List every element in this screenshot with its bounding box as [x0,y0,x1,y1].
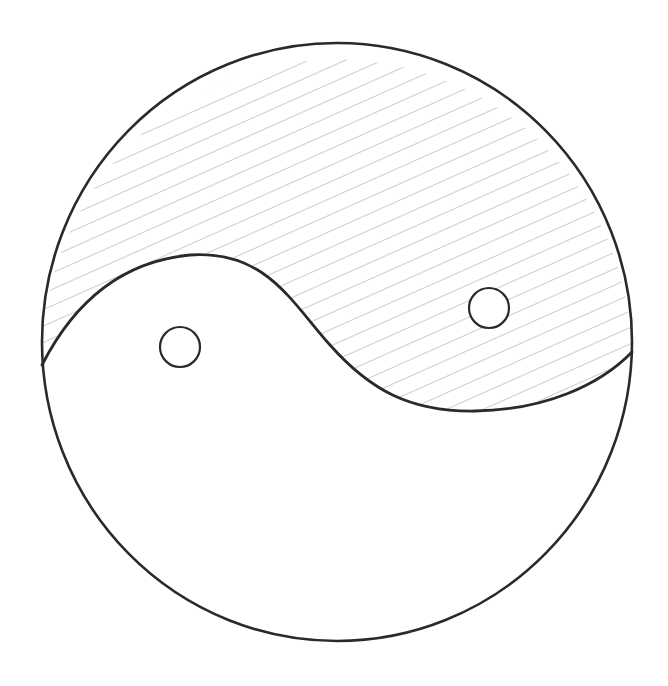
left-eye-dot [160,327,200,367]
drawing-canvas [0,0,668,686]
right-eye-dot [469,288,509,328]
hatched-region [42,59,632,411]
yin-yang-drawing [0,0,668,686]
